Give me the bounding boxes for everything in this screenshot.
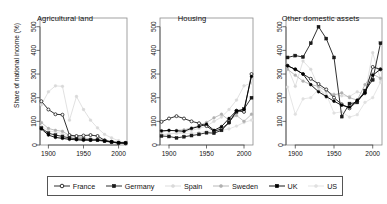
data-point-france <box>325 88 328 91</box>
data-point-spain <box>371 51 374 54</box>
data-point-uk <box>96 138 99 141</box>
data-point-us <box>286 86 289 89</box>
panel-agricultural-land: 0100200300400500190019502000 Agricultura… <box>0 0 130 170</box>
y-tick-label: 100 <box>31 116 38 127</box>
data-point-uk <box>89 139 92 142</box>
data-point-germany <box>379 42 382 45</box>
x-tick-label: 2000 <box>237 150 252 157</box>
data-point-france <box>168 117 171 120</box>
data-point-uk <box>183 130 186 133</box>
data-point-uk <box>198 125 201 128</box>
data-point-france <box>89 134 92 137</box>
x-tick-label: 1900 <box>41 150 56 157</box>
data-point-spain <box>340 94 343 97</box>
data-point-france <box>96 135 99 138</box>
data-point-sweden <box>379 77 382 80</box>
plot-area: 0100200300400500190019502000 <box>0 0 130 170</box>
x-tick-label: 1950 <box>327 150 342 157</box>
data-point-spain <box>47 90 50 93</box>
data-point-france <box>54 113 57 116</box>
y-tick-label: 300 <box>151 68 158 79</box>
data-point-uk <box>75 138 78 141</box>
legend-item-france[interactable]: France <box>53 181 95 191</box>
data-point-sweden <box>243 120 246 123</box>
data-point-spain <box>294 85 297 88</box>
data-point-uk <box>47 134 50 137</box>
data-point-france <box>190 120 193 123</box>
legend-item-sweden[interactable]: Sweden <box>212 181 258 191</box>
data-point-uk <box>317 90 320 93</box>
data-point-germany <box>286 56 289 59</box>
data-point-uk <box>124 141 127 144</box>
data-point-uk <box>243 108 246 111</box>
data-point-france <box>82 134 85 137</box>
legend-key-germany <box>105 181 123 191</box>
data-point-spain <box>213 120 216 123</box>
data-point-sweden <box>61 130 64 133</box>
data-point-germany <box>168 135 171 138</box>
data-point-spain <box>82 108 85 111</box>
data-point-uk <box>309 83 312 86</box>
data-point-uk <box>333 100 336 103</box>
data-point-france <box>40 100 43 103</box>
y-tick-label: 200 <box>31 92 38 103</box>
data-point-uk <box>356 99 359 102</box>
data-point-us <box>302 97 305 100</box>
x-tick-label: 2000 <box>365 150 380 157</box>
legend-item-spain[interactable]: Spain <box>164 181 202 191</box>
legend-item-germany[interactable]: Germany <box>105 181 155 191</box>
data-point-spain <box>302 60 305 63</box>
y-tick-label: 0 <box>151 143 158 147</box>
data-point-france <box>198 122 201 125</box>
data-point-us <box>348 116 351 119</box>
data-point-uk <box>168 129 171 132</box>
data-point-uk <box>54 136 57 139</box>
data-point-germany <box>190 134 193 137</box>
data-point-uk <box>103 139 106 142</box>
data-point-germany <box>333 56 336 59</box>
data-point-france <box>160 120 163 123</box>
data-point-us <box>379 81 382 84</box>
x-tick-label: 1900 <box>162 150 177 157</box>
data-point-spain <box>220 116 223 119</box>
x-tick-label: 1900 <box>288 150 303 157</box>
legend-label: US <box>327 182 337 191</box>
data-point-sweden <box>40 121 43 124</box>
legend-key-uk <box>268 181 286 191</box>
y-tick-label: 300 <box>277 68 284 79</box>
legend-label: France <box>73 182 95 191</box>
legend-item-uk[interactable]: UK <box>268 181 298 191</box>
data-point-germany <box>325 37 328 40</box>
data-point-germany <box>250 96 253 99</box>
data-point-spain <box>75 95 78 98</box>
data-point-uk <box>348 106 351 109</box>
data-point-uk <box>61 137 64 140</box>
plot-area: 0100200300400500190019502000 <box>254 0 387 170</box>
legend-key-france <box>53 181 71 191</box>
data-point-germany <box>198 133 201 136</box>
data-point-uk <box>110 140 113 143</box>
data-point-spain <box>54 84 57 87</box>
x-tick-label: 2000 <box>111 150 126 157</box>
data-point-germany <box>175 136 178 139</box>
data-point-uk <box>117 141 120 144</box>
data-point-germany <box>294 54 297 57</box>
data-point-france <box>75 135 78 138</box>
data-point-uk <box>68 138 71 141</box>
x-tick-label: 1950 <box>76 150 91 157</box>
data-point-uk <box>371 74 374 77</box>
data-point-uk <box>190 127 193 130</box>
data-point-uk <box>325 95 328 98</box>
data-point-us <box>371 96 374 99</box>
panel-title: Other domestic assets <box>254 14 387 23</box>
data-point-germany <box>183 135 186 138</box>
panel-other-domestic-assets: 0100200300400500190019502000 Other domes… <box>254 0 387 170</box>
data-point-germany <box>371 78 374 81</box>
data-point-france <box>183 117 186 120</box>
y-tick-label: 0 <box>31 143 38 147</box>
data-point-uk <box>302 73 305 76</box>
data-point-france <box>333 96 336 99</box>
data-point-sweden <box>54 129 57 132</box>
data-point-sweden <box>364 83 367 86</box>
legend-item-us[interactable]: US <box>307 181 337 191</box>
